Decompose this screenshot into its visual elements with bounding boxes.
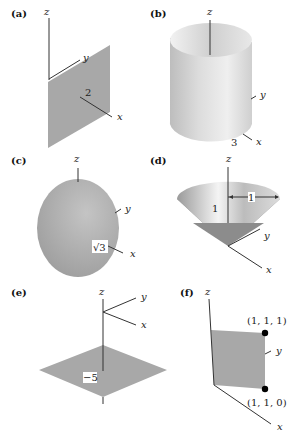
point-top: [262, 330, 268, 336]
panel-e-label: (e): [11, 287, 27, 298]
panel-b-z-label: z: [206, 6, 213, 17]
panel-f-y-label: y: [275, 345, 282, 356]
panel-e-z-label: z: [98, 286, 105, 297]
y-axis: [265, 351, 271, 354]
panel-c-y-label: y: [124, 203, 131, 214]
point-bottom: [262, 386, 268, 392]
panel-f-label: (f): [180, 287, 194, 298]
x-axis: [228, 246, 262, 268]
panel-c-z-label: z: [73, 153, 80, 164]
panel-e-y-label: y: [140, 291, 147, 302]
panel-d-radius-value: 1: [248, 192, 254, 203]
cone-shadow: [193, 223, 264, 246]
panel-d-z-label: z: [225, 153, 232, 164]
panel-e: (e) z y x −5: [11, 286, 167, 404]
panel-e-x-label: x: [141, 319, 147, 330]
panel-d-height-value: 1: [212, 203, 218, 214]
panel-a-x-label: x: [117, 111, 123, 122]
panel-c: (c) z y √3 x: [11, 153, 136, 277]
panel-a: (a) z y x 2: [11, 6, 123, 148]
x-axis: [103, 312, 136, 325]
panel-f-point-top-label: (1, 1, 1): [247, 315, 287, 326]
panel-b-x-label: x: [256, 136, 262, 147]
panel-b: (b) z y 3 x: [150, 6, 266, 148]
y-axis: [103, 298, 136, 312]
panel-a-y-label: y: [82, 52, 89, 63]
panel-b-y-label: y: [259, 89, 266, 100]
panel-f-x-label: x: [277, 421, 283, 432]
panel-f-point-bottom-label: (1, 1, 0): [247, 397, 287, 408]
panel-d: (d) z 1 1 y x: [150, 153, 280, 275]
panel-e-value: −5: [83, 372, 98, 383]
panel-b-label: (b): [150, 8, 166, 19]
x-axis: [243, 134, 252, 140]
panel-c-value: √3: [93, 242, 106, 253]
panel-f: (f) z x y (1, 1, 1) (1, 1, 0): [180, 286, 287, 432]
panel-d-label: (d): [150, 155, 166, 166]
square-surface: [211, 330, 265, 389]
sphere-surface: [37, 179, 119, 277]
panel-c-x-label: x: [130, 248, 136, 259]
panel-b-value: 3: [231, 137, 237, 148]
panel-f-z-label: z: [204, 286, 211, 297]
panel-a-label: (a): [11, 8, 27, 19]
panel-a-value: 2: [85, 87, 91, 98]
panel-c-label: (c): [11, 155, 27, 166]
cylinder-top: [170, 23, 252, 57]
surfaces-figure: (a) z y x 2 (b) z y 3 x (c) z y √3 x (d): [0, 0, 294, 444]
panel-d-y-label: y: [263, 230, 270, 241]
panel-a-z-label: z: [43, 6, 50, 17]
panel-d-x-label: x: [266, 264, 272, 275]
